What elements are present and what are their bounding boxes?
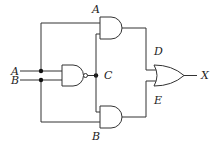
junction-a <box>39 69 43 73</box>
label-top-a: A <box>91 3 100 16</box>
label-bottom-b: B <box>91 130 100 143</box>
label-d: D <box>153 45 163 58</box>
wire-c-distribution <box>96 34 100 112</box>
wire-e <box>122 81 157 117</box>
nand-bubble <box>84 74 88 78</box>
and-gate-bottom <box>100 106 122 128</box>
label-input-b: B <box>10 74 19 87</box>
label-c: C <box>104 69 113 82</box>
nand-gate <box>62 65 84 86</box>
logic-circuit-diagram: A B A B C D E X <box>0 0 217 144</box>
wire-a-to-top-and <box>41 23 100 71</box>
wire-d <box>122 28 157 70</box>
or-gate <box>154 65 184 86</box>
and-gate-top <box>100 17 122 39</box>
label-e: E <box>153 94 162 107</box>
label-x: X <box>200 69 210 82</box>
junction-b <box>39 78 43 82</box>
